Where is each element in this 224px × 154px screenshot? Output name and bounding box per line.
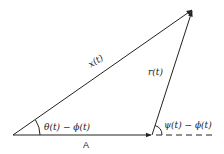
angle-arc-psi: [155, 126, 162, 136]
label-r: r(t): [148, 68, 163, 77]
label-angle-theta: θ(t) − ϕ(t): [44, 123, 90, 132]
label-angle-psi: ψ(t) − ϕ(t): [164, 121, 212, 130]
angle-arc-theta: [36, 120, 41, 135]
label-A: A: [83, 141, 89, 150]
vector-diagram: [0, 0, 224, 154]
vector-x: [13, 10, 192, 135]
